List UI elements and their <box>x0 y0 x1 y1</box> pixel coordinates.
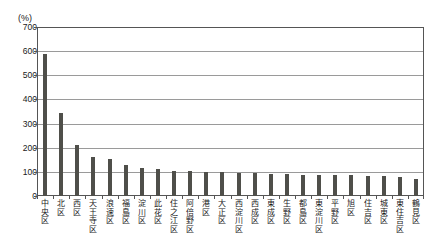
bar <box>43 54 47 196</box>
y-tick-label-400: 400 <box>3 95 37 104</box>
bar <box>124 165 128 196</box>
x-tick-label: 此花区 <box>150 200 166 226</box>
y-tick-label-0: 0 <box>3 192 37 201</box>
bar-slot <box>263 27 279 196</box>
x-tick-label: 平野区 <box>327 200 343 226</box>
bar-slot <box>295 27 311 196</box>
bar-slot <box>37 27 53 196</box>
x-tick-label: 住之江区 <box>166 200 182 234</box>
bar-slot <box>150 27 166 196</box>
x-tick-mark <box>231 196 232 199</box>
x-tick-mark <box>166 196 167 199</box>
x-tick-mark <box>423 196 424 199</box>
bar <box>285 174 289 196</box>
bar <box>156 169 160 196</box>
x-tick-label: 城東区 <box>376 200 392 226</box>
bar-slot <box>53 27 69 196</box>
x-tick-mark <box>37 196 38 199</box>
x-tick-label: 天王寺区 <box>85 200 101 234</box>
bar <box>253 173 257 196</box>
x-tick-mark <box>295 196 296 199</box>
x-tick-mark <box>376 196 377 199</box>
x-tick-label: 東淀川区 <box>311 200 327 234</box>
y-tick-label-600: 600 <box>3 47 37 56</box>
bar-slot <box>231 27 247 196</box>
x-tick-mark <box>85 196 86 199</box>
bar-slot <box>134 27 150 196</box>
bar-slot <box>327 27 343 196</box>
y-axis: 0100200300400500600700 <box>0 27 37 196</box>
x-tick-mark <box>360 196 361 199</box>
x-axis-labels: 中央区北区西区天王寺区浪速区福島区淀川区此花区住之江区阿倍野区港区大正区西淀川区… <box>37 200 424 252</box>
bar <box>414 179 418 196</box>
bar <box>237 173 241 196</box>
bar-slot <box>198 27 214 196</box>
bar <box>269 174 273 196</box>
bar <box>59 113 63 196</box>
x-tick-mark <box>343 196 344 199</box>
x-tick-mark <box>408 196 409 199</box>
x-tick-mark <box>69 196 70 199</box>
bar-slot <box>118 27 134 196</box>
x-tick-label: 東成区 <box>263 200 279 226</box>
x-tick-mark <box>247 196 248 199</box>
bar <box>204 172 208 196</box>
x-tick-label: 港区 <box>198 200 214 217</box>
y-tick-label-200: 200 <box>3 143 37 152</box>
bar <box>398 177 402 196</box>
bar <box>140 168 144 196</box>
x-tick-mark <box>392 196 393 199</box>
x-tick-mark <box>198 196 199 199</box>
x-tick-label: 大正区 <box>214 200 230 226</box>
bar <box>349 175 353 196</box>
y-tick-label-100: 100 <box>3 167 37 176</box>
y-tick-label-500: 500 <box>3 71 37 80</box>
x-tick-label: 西区 <box>69 200 85 217</box>
bar-slot <box>102 27 118 196</box>
x-tick-label: 旭区 <box>343 200 359 217</box>
x-tick-label: 西成区 <box>247 200 263 226</box>
x-tick-label: 都島区 <box>295 200 311 226</box>
x-tick-mark <box>102 196 103 199</box>
x-tick-label: 西淀川区 <box>231 200 247 234</box>
x-tick-mark <box>150 196 151 199</box>
bar-slot <box>311 27 327 196</box>
bar <box>220 172 224 196</box>
bar <box>108 159 112 196</box>
x-tick-mark <box>53 196 54 199</box>
bar <box>75 145 79 196</box>
bar <box>301 175 305 196</box>
x-tick-label: 住吉区 <box>360 200 376 226</box>
bar-slot <box>343 27 359 196</box>
x-tick-label: 北区 <box>53 200 69 217</box>
bar <box>333 175 337 196</box>
x-tick-mark <box>279 196 280 199</box>
bar <box>382 176 386 196</box>
bar-chart: (%) 0100200300400500600700 中央区北区西区天王寺区浪速… <box>0 0 437 252</box>
bar-slot <box>182 27 198 196</box>
x-tick-label: 東住吉区 <box>392 200 408 234</box>
x-tick-mark <box>134 196 135 199</box>
x-tick-mark <box>214 196 215 199</box>
x-tick-label: 淀川区 <box>134 200 150 226</box>
x-tick-label: 阿倍野区 <box>182 200 198 234</box>
x-tick-mark <box>327 196 328 199</box>
bar <box>172 171 176 196</box>
bar-slot <box>279 27 295 196</box>
y-tick-label-700: 700 <box>3 23 37 32</box>
x-tick-mark <box>118 196 119 199</box>
x-tick-label: 生野区 <box>279 200 295 226</box>
bars-layer <box>37 27 424 196</box>
bar-slot <box>408 27 424 196</box>
bar-slot <box>360 27 376 196</box>
x-tick-mark <box>182 196 183 199</box>
bar <box>366 176 370 196</box>
bar-slot <box>69 27 85 196</box>
x-tick-label: 浪速区 <box>102 200 118 226</box>
bar-slot <box>247 27 263 196</box>
bar-slot <box>85 27 101 196</box>
bar <box>91 157 95 196</box>
bar <box>317 175 321 196</box>
x-tick-label: 福島区 <box>118 200 134 226</box>
bar <box>188 171 192 196</box>
